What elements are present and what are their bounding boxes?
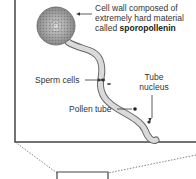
pollen-tube-label: Pollen tube (69, 104, 112, 114)
cell-wall-label-line2: extremely hard material (95, 13, 184, 23)
zoom-line-right (108, 155, 196, 173)
zoom-line-left (15, 142, 57, 173)
small-box (57, 172, 108, 179)
sperm-cell (107, 83, 111, 85)
sperm-cells-label: Sperm cells (35, 75, 79, 85)
tube-nucleus-label: Tube nucleus (137, 72, 171, 92)
cell-wall-label-line3: called sporopollenin (95, 23, 184, 33)
tube-nucleus-label-line2: nucleus (137, 82, 171, 92)
cell-wall-label-line1: Cell wall composed of (95, 3, 184, 13)
sporopollenin-term: sporopollenin (120, 23, 176, 33)
cell-wall-label: Cell wall composed of extremely hard mat… (95, 3, 184, 33)
tube-nucleus-label-line1: Tube (137, 72, 171, 82)
label-prefix: called (95, 23, 120, 33)
